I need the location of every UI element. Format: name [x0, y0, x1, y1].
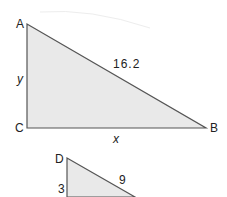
- vertex-label-a: A: [16, 18, 24, 30]
- vertex-label-d: D: [55, 153, 64, 165]
- vertex-label-c: C: [15, 122, 24, 134]
- side-label-ac: y: [17, 73, 23, 85]
- side-label-cb: x: [113, 133, 119, 145]
- vertex-label-b: B: [210, 122, 218, 134]
- faint-background-arc: [40, 11, 150, 28]
- side-label-ab: 16.2: [113, 58, 140, 70]
- side-label-d-hypotenuse: 9: [119, 174, 126, 186]
- triangle-abc: [27, 24, 206, 128]
- diagram-canvas: [0, 0, 227, 197]
- side-label-d-vertical: 3: [58, 183, 65, 195]
